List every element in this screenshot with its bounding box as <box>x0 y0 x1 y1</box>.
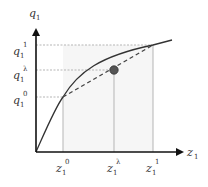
x-axis-label: z 1 <box>186 146 198 161</box>
y-axis-label: q 1 <box>29 7 40 22</box>
svg-text:q: q <box>13 94 20 107</box>
interpolated-point <box>110 66 118 74</box>
x-tick-z1-0: z 1 0 <box>55 158 69 177</box>
svg-text:λ: λ <box>23 65 28 73</box>
svg-text:1: 1 <box>155 158 159 166</box>
y-tick-q1-lambda: q 1 λ <box>13 65 28 84</box>
svg-text:λ: λ <box>116 158 121 166</box>
svg-text:1: 1 <box>20 52 24 60</box>
shaded-region <box>63 45 153 152</box>
svg-text:z: z <box>106 162 113 175</box>
svg-text:0: 0 <box>65 158 69 166</box>
svg-text:q: q <box>29 7 36 20</box>
svg-text:1: 1 <box>152 169 156 177</box>
svg-text:q: q <box>13 69 20 82</box>
y-tick-q1-1: q 1 1 <box>13 41 27 60</box>
svg-text:1: 1 <box>113 169 117 177</box>
svg-text:1: 1 <box>194 153 198 161</box>
svg-text:1: 1 <box>36 14 40 22</box>
svg-text:q: q <box>13 45 20 58</box>
svg-text:z: z <box>55 162 62 175</box>
svg-text:1: 1 <box>62 169 66 177</box>
y-tick-q1-0: q 1 0 <box>13 90 27 109</box>
svg-text:1: 1 <box>20 101 24 109</box>
x-tick-z1-lambda: z 1 λ <box>106 158 121 177</box>
x-tick-z1-1: z 1 1 <box>145 158 159 177</box>
svg-text:1: 1 <box>20 76 24 84</box>
diagram-canvas: q 1 z 1 q 1 1 q 1 λ q 1 0 z 1 0 <box>0 0 208 187</box>
svg-text:z: z <box>186 146 193 159</box>
svg-text:1: 1 <box>23 41 27 49</box>
svg-text:0: 0 <box>23 90 27 98</box>
svg-text:z: z <box>145 162 152 175</box>
